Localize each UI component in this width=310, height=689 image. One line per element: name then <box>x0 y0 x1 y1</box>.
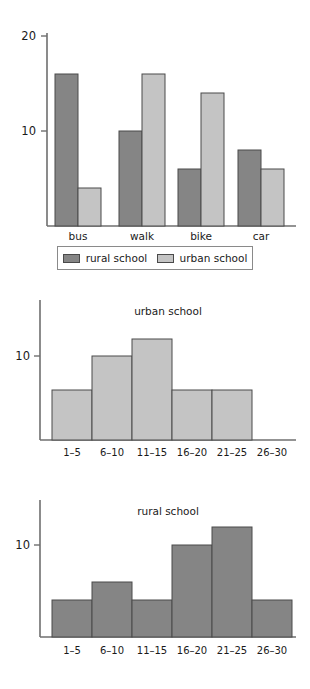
urban-school-histogram-canvas: urban school 10 1–5 6–10 11–15 16–20 21–… <box>0 288 310 473</box>
legend-entry-urban: urban school <box>157 252 248 264</box>
urban-chart-title: urban school <box>134 305 202 317</box>
bar-rural-bike <box>178 169 201 226</box>
legend-swatch-rural-icon <box>63 254 80 263</box>
bar-rural-bin-21-25 <box>212 527 252 637</box>
bar-urban-bus <box>78 188 101 226</box>
legend-label-rural: rural school <box>86 252 148 264</box>
y-tick-10-label: 10 <box>15 349 30 363</box>
bar-urban-bike <box>201 93 224 226</box>
bar-urban-car <box>261 169 284 226</box>
bar-urban-bin-1-5 <box>52 390 92 440</box>
bin-label-6-10: 6–10 <box>100 447 124 458</box>
bar-urban-bin-6-10 <box>92 356 132 440</box>
category-label-bus: bus <box>69 230 88 242</box>
grouped-bar-chart-canvas: 20 10 bus walk bike car <box>0 0 310 282</box>
bar-rural-bin-11-15 <box>132 600 172 637</box>
bin-label-6-10: 6–10 <box>100 645 124 656</box>
rural-school-histogram-canvas: rural school 10 1–5 6–10 11–15 16–20 21–… <box>0 487 310 677</box>
bar-urban-bin-21-25 <box>212 390 252 440</box>
bin-label-11-15: 11–15 <box>137 645 167 656</box>
bar-urban-bin-16-20 <box>172 390 212 440</box>
category-label-walk: walk <box>130 230 155 242</box>
legend-swatch-urban-icon <box>157 254 174 263</box>
bar-rural-bin-1-5 <box>52 600 92 637</box>
bar-rural-bin-6-10 <box>92 582 132 637</box>
rural-school-histogram: rural school 10 1–5 6–10 11–15 16–20 21–… <box>0 487 310 677</box>
bar-rural-walk <box>119 131 142 226</box>
bin-label-26-30: 26–30 <box>257 447 287 458</box>
y-tick-20-label: 20 <box>21 29 36 43</box>
grouped-bar-chart: 20 10 bus walk bike car <box>0 0 310 282</box>
bar-rural-bus <box>55 74 78 226</box>
bin-label-1-5: 1–5 <box>63 447 81 458</box>
bin-label-21-25: 21–25 <box>217 447 247 458</box>
bar-urban-walk <box>142 74 165 226</box>
category-label-bike: bike <box>190 230 212 242</box>
urban-school-histogram: urban school 10 1–5 6–10 11–15 16–20 21–… <box>0 288 310 473</box>
bar-rural-bin-26-30 <box>252 600 292 637</box>
y-tick-10-label: 10 <box>15 538 30 552</box>
chart-legend: rural school urban school <box>57 246 253 270</box>
bin-label-16-20: 16–20 <box>177 645 207 656</box>
y-tick-10-label: 10 <box>21 124 36 138</box>
bin-label-26-30: 26–30 <box>257 645 287 656</box>
bin-label-11-15: 11–15 <box>137 447 167 458</box>
bar-rural-car <box>238 150 261 226</box>
bar-rural-bin-16-20 <box>172 545 212 637</box>
bar-urban-bin-11-15 <box>132 339 172 440</box>
rural-chart-title: rural school <box>137 505 199 517</box>
bin-label-16-20: 16–20 <box>177 447 207 458</box>
bin-label-1-5: 1–5 <box>63 645 81 656</box>
legend-label-urban: urban school <box>180 252 248 264</box>
bin-label-21-25: 21–25 <box>217 645 247 656</box>
legend-entry-rural: rural school <box>63 252 148 264</box>
category-label-car: car <box>253 230 270 242</box>
